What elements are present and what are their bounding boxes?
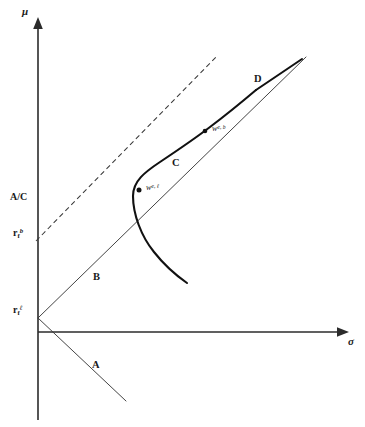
tick-rf-lend-sup: ℓ — [20, 304, 23, 311]
region-a-ray-group — [38, 318, 126, 401]
frontier-upper-branch — [133, 90, 256, 196]
figure-canvas: μ σ A/C rfb rfℓ A B C D we, ℓ we, b — [0, 0, 365, 427]
point-w-e-borrow-dot[interactable] — [203, 129, 208, 134]
tick-rf-borrow-sup: b — [20, 227, 23, 234]
x-axis-label: σ — [348, 336, 354, 347]
point-w-e-lend-sup: e, ℓ — [151, 183, 159, 189]
y-axis-arrowhead — [33, 17, 43, 29]
region-label-b: B — [93, 272, 100, 283]
frontier-asymptotic-segment — [256, 59, 302, 90]
point-w-e-borrow-label: we, b — [212, 125, 226, 133]
point-w-e-borrow-sup: e, b — [217, 124, 225, 130]
frontier-group — [133, 59, 302, 283]
borrowing-cal-group — [36, 55, 218, 241]
axes-group — [33, 17, 349, 420]
tick-rf-lend: rfℓ — [13, 305, 23, 315]
lending-capital-allocation-line — [38, 57, 306, 318]
point-w-e-lend-dot[interactable] — [137, 188, 142, 193]
tick-rf-borrow: rfb — [13, 228, 23, 238]
mean-variance-plot — [0, 0, 365, 427]
region-a-ray — [38, 318, 126, 401]
lending-cal-group — [38, 57, 306, 318]
region-label-a: A — [92, 360, 100, 371]
region-label-d: D — [254, 74, 262, 85]
borrowing-capital-allocation-line — [36, 55, 218, 241]
tick-a-over-c: A/C — [10, 192, 27, 202]
point-w-e-lend-label: we, ℓ — [146, 184, 159, 192]
y-axis-label: μ — [22, 6, 28, 17]
region-label-c: C — [172, 158, 180, 169]
frontier-lower-branch — [133, 196, 187, 283]
